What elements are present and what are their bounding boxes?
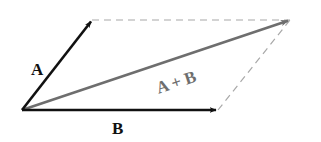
vector-addition-diagram: A B A + B [0,0,321,142]
dashed-edge-right [218,20,290,110]
vector-a-label: A [31,60,44,79]
vector-b-label: B [112,119,123,138]
resultant-vector-arrow [22,21,288,110]
resultant-label: A + B [154,67,199,98]
